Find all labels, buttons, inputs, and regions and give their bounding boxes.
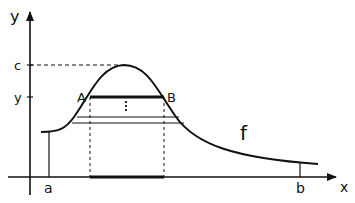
a-label: a: [44, 180, 53, 196]
x-axis-label: x: [340, 179, 348, 195]
y-label: y: [14, 90, 22, 105]
c-label: c: [14, 58, 21, 73]
b-label: b: [296, 180, 305, 196]
B-label: B: [167, 90, 176, 105]
y-axis-label: y: [10, 7, 19, 26]
function-label: f: [240, 121, 248, 145]
A-label: A: [77, 90, 86, 105]
function-diagram: y x c y a b A B f: [0, 0, 355, 203]
function-curve: [41, 65, 318, 164]
